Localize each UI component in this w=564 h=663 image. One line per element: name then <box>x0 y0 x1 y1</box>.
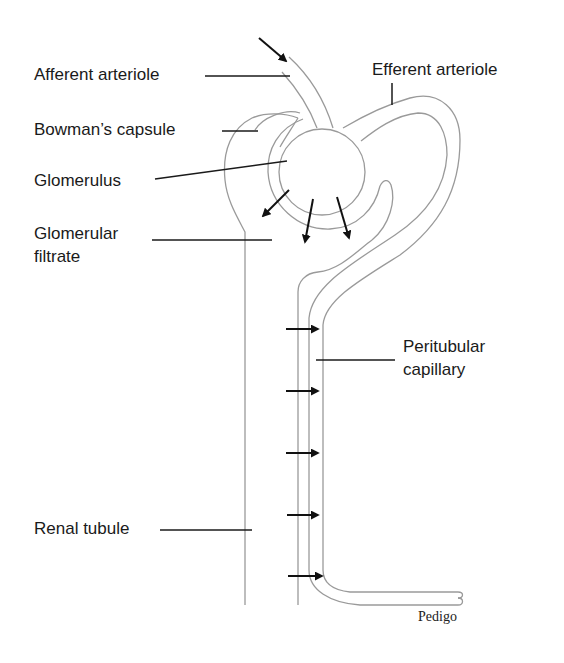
efferent-arteriole-inner <box>309 113 463 605</box>
label-glomerular-filtrate-2: filtrate <box>34 247 80 267</box>
leader-glomerulus <box>155 161 287 179</box>
label-peritubular-capillary-1: Peritubular <box>403 337 485 357</box>
capsule-right-lip <box>372 181 393 240</box>
glomerulus <box>279 129 365 215</box>
afferent-arteriole-inner <box>282 72 317 128</box>
label-afferent-arteriole: Afferent arteriole <box>34 65 159 85</box>
filtration-arrow-right <box>337 197 349 238</box>
filtration-arrow-mid <box>305 199 313 242</box>
label-bowmans-capsule: Bowman’s capsule <box>34 120 175 140</box>
bowmans-capsule-outer <box>224 114 298 605</box>
filtration-arrow-left <box>263 190 289 216</box>
label-efferent-arteriole: Efferent arteriole <box>372 60 497 80</box>
label-renal-tubule: Renal tubule <box>34 519 129 539</box>
nephron-diagram <box>0 0 564 663</box>
label-peritubular-capillary-2: capillary <box>403 360 465 380</box>
label-glomerulus: Glomerulus <box>34 171 121 191</box>
credit-text: Pedigo <box>418 609 457 625</box>
blood-inflow-arrow <box>259 38 286 61</box>
label-glomerular-filtrate-1: Glomerular <box>34 224 118 244</box>
bowmans-capsule-inner <box>268 119 380 229</box>
